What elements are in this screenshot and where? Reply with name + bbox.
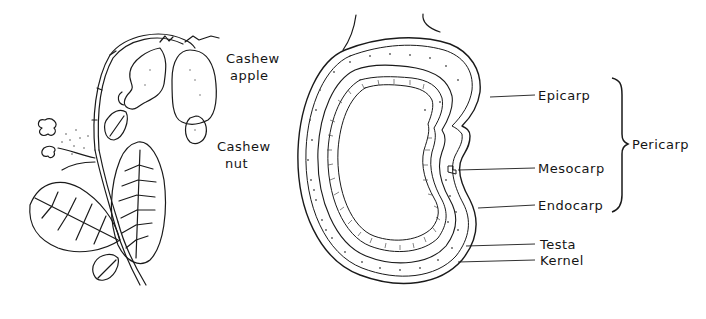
cashew-nut-section-illustration [0,0,706,319]
label-cashew-nut-line2: nut [217,155,271,172]
label-cashew-apple-line1: Cashew [226,50,280,67]
label-cashew-nut-line1: Cashew [217,138,271,155]
label-cashew-apple-line2: apple [226,67,280,84]
label-pericarp: Pericarp [632,137,689,152]
label-epicarp: Epicarp [538,88,590,103]
label-kernel: Kernel [540,253,584,268]
label-endocarp: Endocarp [538,198,603,213]
label-testa: Testa [540,237,576,252]
label-cashew-nut: Cashew nut [217,138,271,172]
label-mesocarp: Mesocarp [538,161,605,176]
cashew-diagram: Cashew apple Cashew nut Epicarp Mesocarp… [0,0,706,319]
label-cashew-apple: Cashew apple [226,50,280,84]
